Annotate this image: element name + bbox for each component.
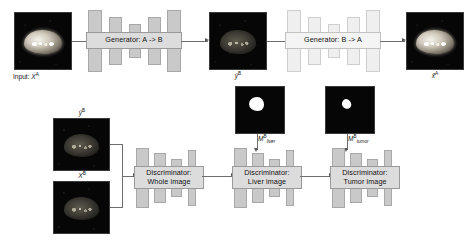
discriminator-liver-image-label: Discriminator: Liver image [232,166,302,189]
input-image-caption: Input: XA [13,74,39,81]
figure-canvas: Input: XA Generator: A -> B ŷB Generator… [0,0,473,246]
input-image-tile [14,12,72,70]
translated-image-caption: ŷB [235,73,241,80]
liver-region [64,134,99,156]
generator-ab-block[interactable]: Generator: A -> B [88,10,180,72]
real-image-tile [53,181,110,234]
connector-discriminator-liver-to-tumor [300,176,332,177]
reconstructed-image-tile [406,12,464,70]
tumor-mask-caption: MBtumor [348,136,369,143]
liver-mask-blob [249,97,263,111]
translated-image-tile [209,12,267,70]
fake-image-tile [53,118,110,171]
discriminator-liver-image-block[interactable]: Discriminator: Liver image [234,148,300,208]
tumor-mask-tile [325,86,375,134]
fake-image-caption: ŷB [79,110,85,117]
liver-region [24,30,62,55]
connector-discriminator-whole-to-liver [202,176,234,177]
liver-mask-caption: MBliver [258,136,275,143]
discriminator-whole-image-label: Discriminator: Whole image [134,166,204,189]
liver-mask-tile [235,86,285,134]
discriminator-tumor-image-label: Discriminator: Tumor image [330,166,400,189]
discriminator-tumor-image-block[interactable]: Discriminator: Tumor image [332,148,398,208]
tumor-mask-blob [340,97,353,110]
generator-ba-block[interactable]: Generator: B -> A [287,10,379,72]
generator-ba-label: Generator: B -> A [285,32,381,49]
reconstructed-image-caption: x̂A [432,73,438,80]
generator-ab-label: Generator: A -> B [86,32,182,49]
liver-region [64,197,99,219]
liver-region [220,30,256,55]
real-image-caption: XB [78,173,86,180]
liver-region [416,30,454,55]
discriminator-whole-image-block[interactable]: Discriminator: Whole image [136,148,202,208]
connector-generator-ab-to-translated [181,41,208,42]
